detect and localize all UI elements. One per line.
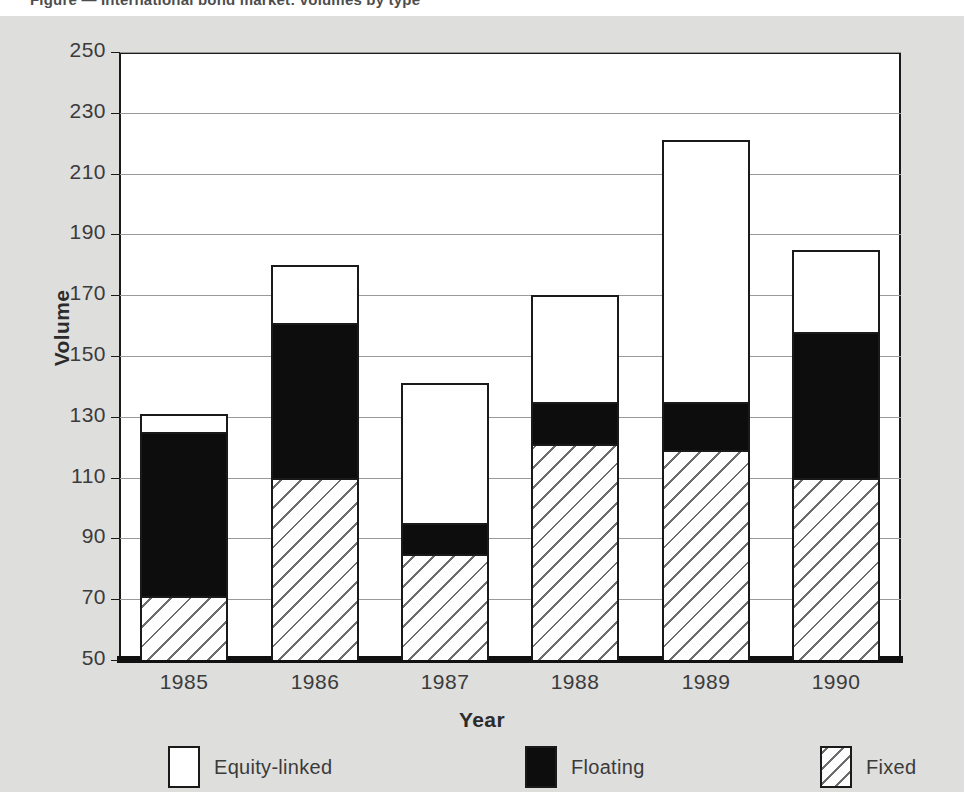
bar-segment-fixed-1985[interactable] — [140, 596, 228, 660]
y-tick-mark — [111, 113, 120, 114]
legend-item-floating[interactable]: Floating — [525, 746, 645, 788]
y-tick-mark — [111, 52, 120, 53]
legend-item-equity-linked[interactable]: Equity-linked — [168, 746, 332, 788]
y-tick-label: 210 — [40, 160, 106, 184]
bar-stack-1987[interactable] — [401, 52, 489, 660]
y-tick-mark — [111, 478, 120, 479]
bar-segment-equity-1990[interactable] — [792, 250, 880, 332]
x-axis-baseline — [117, 656, 903, 663]
bar-segment-fixed-1986[interactable] — [271, 478, 359, 660]
gridline — [119, 356, 901, 357]
legend-item-fixed[interactable]: Fixed — [820, 746, 916, 788]
legend-label: Equity-linked — [214, 756, 332, 779]
bar-segment-fixed-1988[interactable] — [531, 444, 619, 660]
legend-swatch-icon — [525, 746, 557, 788]
y-tick-label: 50 — [40, 646, 106, 670]
gridline — [119, 295, 901, 296]
x-axis-title: Year — [0, 708, 964, 732]
x-tick-label-1988: 1988 — [510, 670, 640, 694]
y-tick-label: 130 — [40, 403, 106, 427]
y-tick-label: 70 — [40, 585, 106, 609]
bar-segment-equity-1986[interactable] — [271, 265, 359, 323]
bar-segment-equity-1987[interactable] — [401, 383, 489, 523]
x-tick-label-1987: 1987 — [380, 670, 510, 694]
bar-segment-floating-1987[interactable] — [401, 523, 489, 553]
legend-label: Fixed — [866, 756, 916, 779]
gridline — [119, 478, 901, 479]
bar-stack-1985[interactable] — [140, 52, 228, 660]
y-tick-label: 230 — [40, 99, 106, 123]
bar-segment-floating-1990[interactable] — [792, 332, 880, 478]
y-tick-mark — [111, 538, 120, 539]
y-tick-label: 150 — [40, 342, 106, 366]
chart-figure: Volume 507090110130150170190210230250 19… — [0, 16, 964, 783]
bar-stack-1986[interactable] — [271, 52, 359, 660]
legend-label: Floating — [571, 756, 645, 779]
bar-stack-1990[interactable] — [792, 52, 880, 660]
bar-segment-fixed-1987[interactable] — [401, 554, 489, 660]
gridline — [119, 52, 901, 53]
bar-segment-equity-1985[interactable] — [140, 414, 228, 432]
chart-legend: Equity-linkedFloatingFixed — [0, 740, 964, 792]
bar-segment-equity-1989[interactable] — [662, 140, 750, 401]
y-tick-label: 190 — [40, 220, 106, 244]
legend-swatch-icon — [820, 746, 852, 788]
bar-stack-1988[interactable] — [531, 52, 619, 660]
bar-segment-floating-1989[interactable] — [662, 402, 750, 451]
gridline — [119, 174, 901, 175]
y-axis-title: Volume — [50, 258, 74, 398]
y-tick-label: 170 — [40, 281, 106, 305]
y-tick-label: 250 — [40, 38, 106, 62]
gridline — [119, 538, 901, 539]
y-tick-label: 90 — [40, 524, 106, 548]
cut-off-caption-strip: Figure — International bond market: volu… — [0, 0, 964, 16]
bar-segment-fixed-1989[interactable] — [662, 450, 750, 660]
y-tick-mark — [111, 295, 120, 296]
bar-segment-floating-1986[interactable] — [271, 323, 359, 478]
x-tick-label-1986: 1986 — [250, 670, 380, 694]
bar-segment-equity-1988[interactable] — [531, 295, 619, 401]
y-tick-mark — [111, 174, 120, 175]
gridline — [119, 599, 901, 600]
x-tick-label-1985: 1985 — [119, 670, 249, 694]
y-tick-mark — [111, 234, 120, 235]
y-tick-label: 110 — [40, 464, 106, 488]
gridline — [119, 113, 901, 114]
x-tick-label-1990: 1990 — [771, 670, 901, 694]
y-tick-mark — [111, 599, 120, 600]
bar-segment-fixed-1990[interactable] — [792, 478, 880, 660]
legend-swatch-icon — [168, 746, 200, 788]
gridline — [119, 234, 901, 235]
x-tick-label-1989: 1989 — [641, 670, 771, 694]
bar-segment-floating-1988[interactable] — [531, 402, 619, 445]
caption-remnant-text: Figure — International bond market: volu… — [30, 0, 420, 8]
gridline — [119, 417, 901, 418]
y-tick-mark — [111, 660, 120, 661]
y-tick-mark — [111, 356, 120, 357]
bar-stack-1989[interactable] — [662, 52, 750, 660]
bar-segment-floating-1985[interactable] — [140, 432, 228, 596]
y-tick-mark — [111, 417, 120, 418]
